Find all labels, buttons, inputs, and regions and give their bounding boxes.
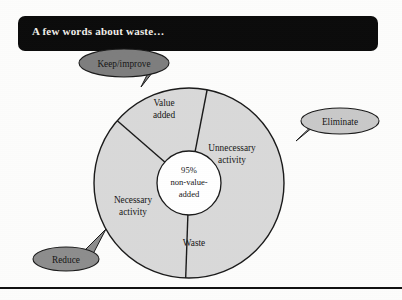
sector-label-value-added-line-2: added	[153, 110, 176, 120]
center-label-line-2: non-value-	[170, 177, 207, 187]
callout-eliminate-label: Eliminate	[322, 117, 358, 127]
sector-label-waste-line-1: Waste	[183, 238, 205, 248]
waste-pie-diagram: 95% non-value- added Value added Unneces…	[0, 0, 402, 300]
sector-label-unnecessary-line-2: activity	[218, 155, 246, 165]
center-label-line-3: added	[179, 189, 200, 199]
sector-label-unnecessary-line-1: Unnecessary	[208, 143, 256, 153]
sector-label-value-added-line-1: Value	[153, 98, 174, 108]
center-label-line-1: 95%	[181, 165, 197, 175]
sector-label-waste: Waste	[183, 238, 205, 248]
callout-eliminate[interactable]: Eliminate	[296, 108, 379, 141]
sector-label-necessary-line-1: Necessary	[114, 195, 153, 205]
callout-reduce-label: Reduce	[52, 255, 80, 265]
callout-keep-improve[interactable]: Keep/improve	[79, 49, 169, 87]
callout-reduce[interactable]: Reduce	[33, 229, 106, 271]
slide-canvas: A few words about waste… 95% non-value- …	[0, 0, 402, 300]
sector-label-necessary-line-2: activity	[119, 207, 147, 217]
callout-keep-improve-label: Keep/improve	[97, 59, 150, 69]
